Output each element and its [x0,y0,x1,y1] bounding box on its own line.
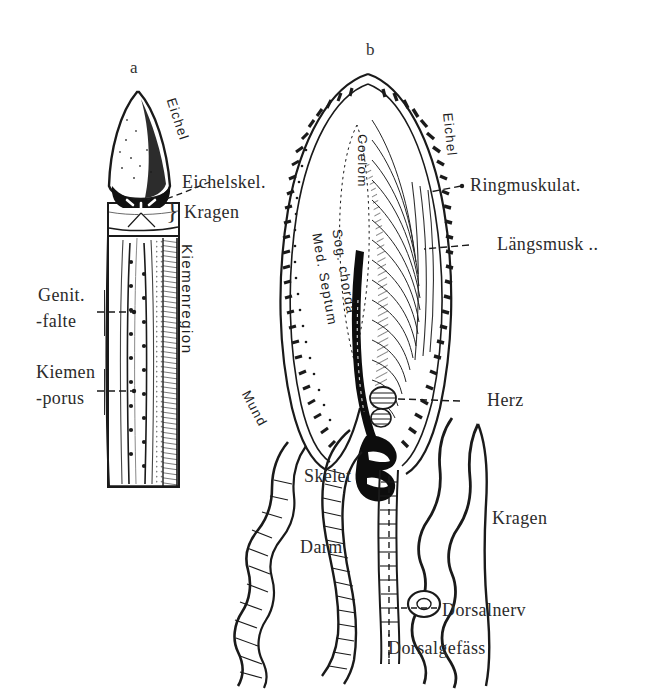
anatomical-line-drawing [0,0,652,689]
label-a-eichelskel: Eichelskel. [182,172,266,193]
label-a-kiemenporus-line2: -porus [36,388,84,409]
figure-letter-a: a [130,58,138,78]
label-b-darm: Darm [300,537,343,558]
label-a-genitalfalte-line2: -falte [36,311,76,332]
brace-kragen-a: } [166,196,178,226]
label-b-laengsmusk: Längsmusk .. [497,234,598,255]
label-a-genitalfalte-line1: Genit. [38,285,85,306]
label-b-dorsalgefaess: Dorsalgefäss [388,638,486,659]
label-b-ringmuskulat: Ringmuskulat. [470,175,581,196]
label-b-coelom: Coelom [355,134,370,188]
label-b-dorsalnerv: Dorsalnerv [442,600,526,621]
label-a-kiemenporus-line1: Kiemen [36,362,95,383]
figure-a-artwork [107,92,179,487]
genitalfalte-range-bar [104,290,105,336]
label-b-kragen: Kragen [492,508,547,529]
label-b-herz: Herz [487,390,524,411]
illustration-plate: a b Eichel Eichelskel. } Kragen Genit. -… [0,0,652,689]
label-a-kiemenregion: Kiemenregion [179,244,196,355]
label-a-kragen: Kragen [184,202,239,223]
figure-letter-b: b [366,40,375,60]
kiemenporus-range-bar [104,369,105,415]
label-b-skelet: Skelet [304,466,351,487]
